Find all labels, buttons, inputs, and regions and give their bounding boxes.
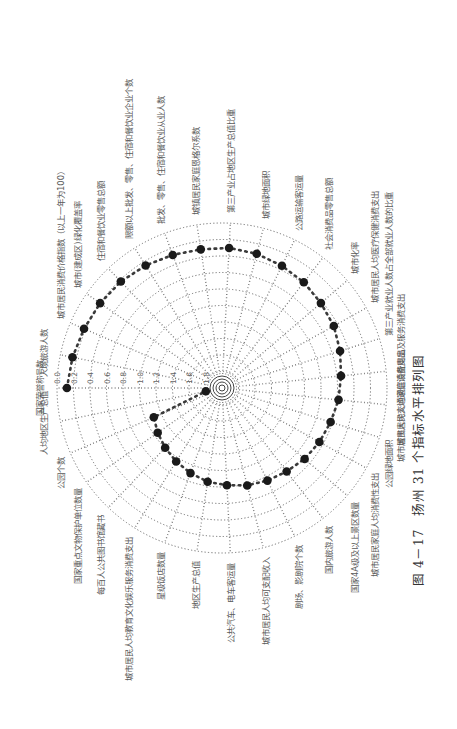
axis-label: 人均地区生产总值	[39, 390, 49, 455]
axis-label: 剧场、影剧院个数	[294, 544, 304, 609]
data-point	[300, 278, 309, 287]
axis-label: 城市(建成区)绿化覆盖率	[73, 201, 83, 288]
data-point	[330, 322, 339, 331]
radar-chart: 0.00.20.40.60.81.01.21.41.61.8 国家荣誉称号数人境…	[35, 78, 406, 680]
data-point	[243, 481, 252, 490]
data-point	[153, 428, 162, 437]
grid-spoke	[60, 391, 208, 421]
data-point	[203, 477, 212, 486]
grid-spoke	[236, 389, 386, 404]
center-ring	[210, 376, 234, 400]
data-point	[96, 299, 105, 308]
scale-tick-label: 1.8	[202, 372, 211, 384]
data-point	[336, 347, 345, 356]
grid-spoke	[236, 371, 386, 386]
axis-label: 公园绿地面积	[384, 439, 394, 488]
data-point	[149, 413, 158, 422]
axis-label: 第三产业占地区生产总值比重	[226, 109, 236, 213]
scale-tick-labels: 0.00.20.40.60.81.01.21.41.61.8	[53, 372, 211, 384]
axis-label: 第三产业就业人数占全部就业人数的比重	[384, 192, 394, 336]
data-point	[80, 324, 89, 333]
data-point	[263, 476, 272, 485]
grid-spoke	[226, 402, 264, 548]
axis-label: 城市绿地面积	[261, 170, 271, 219]
axis-label: 人境旅游人数	[39, 328, 49, 377]
scale-tick-label: 0.2	[70, 372, 79, 384]
data-point	[168, 251, 177, 260]
axis-label: 公路运输客运量	[294, 175, 304, 231]
rotated-document-page: 0.00.20.40.60.81.01.21.41.61.8 国家荣誉称号数人境…	[0, 0, 457, 729]
data-point	[223, 481, 232, 490]
scale-tick-label: 0.4	[86, 372, 95, 384]
axis-label: 公园个数	[56, 456, 66, 489]
grid-ring	[156, 322, 288, 454]
axis-label: 城市居民人均教育文化娱乐服务消费支出	[124, 537, 134, 681]
grid-spoke	[70, 394, 209, 454]
scale-tick-label: 1.4	[169, 372, 178, 384]
center-ring	[219, 385, 225, 391]
scale-tick-label: 1.6	[185, 372, 194, 384]
axis-label: 地区生产总值	[191, 560, 201, 609]
data-point	[161, 443, 170, 452]
axis-label: 住宿和餐饮业零售总额	[96, 180, 106, 261]
data-point	[252, 250, 261, 259]
grid-spoke	[228, 240, 294, 376]
center-rings	[210, 376, 234, 400]
data-point	[63, 384, 72, 393]
data-point	[225, 244, 234, 253]
data-point	[141, 261, 150, 270]
grid-ring	[189, 355, 255, 421]
axis-label: 城市居民消费价格指数（以上一年为100）	[56, 167, 66, 319]
grid-spoke	[235, 339, 379, 384]
axis-label: 国内旅游人数	[324, 525, 334, 574]
data-point	[202, 387, 211, 396]
grid-rings	[57, 223, 387, 553]
grid-spoke	[197, 402, 220, 551]
axis-label: 城市居民人均医疗保健消费支出	[370, 191, 380, 303]
data-point	[278, 261, 287, 270]
data-point	[282, 467, 291, 476]
data-point	[117, 277, 126, 286]
scale-tick-label: 1.2	[152, 372, 161, 384]
axis-label: 城市居民人均交通通信消费支出	[396, 350, 406, 462]
grid-ring	[90, 256, 354, 520]
data-point	[196, 245, 205, 254]
axis-label: 每百人公共图书馆藏书	[96, 515, 106, 595]
axis-label: 星级饭店数量	[156, 552, 166, 600]
data-point	[315, 438, 324, 447]
data-point	[300, 455, 309, 464]
axis-label: 社会消费品零售总额	[324, 177, 334, 250]
grid-spoke	[223, 402, 231, 553]
scale-tick-label: 1.0	[136, 372, 145, 384]
center-ring	[216, 382, 228, 394]
figure-caption: 图 4－17 扬州 31 个指标水平排列图	[411, 355, 426, 586]
grid-spoke	[231, 258, 323, 377]
axis-label: 公共汽车、电车客运量	[226, 563, 236, 643]
axis-label: 国家4A级及以上景区数量	[350, 502, 360, 593]
grid-spoke	[231, 399, 323, 518]
data-point	[317, 299, 326, 308]
axis-label: 城市化率	[350, 242, 360, 274]
scale-tick-label: 0.6	[103, 372, 112, 384]
data-points	[63, 244, 346, 490]
data-point	[334, 396, 343, 405]
grid-ring	[123, 289, 321, 487]
grid-spoke	[235, 392, 379, 437]
scale-tick-label: 0.0	[53, 372, 62, 384]
grid-spoke	[234, 308, 366, 381]
data-point	[172, 457, 181, 466]
axis-label: 城市居民家庭人均消费性支出	[370, 473, 380, 577]
data-point	[326, 418, 335, 427]
grid-spoke	[233, 397, 348, 495]
axis-label: 城镇居民家庭恩格尔系数	[191, 126, 201, 215]
axis-label: 国家重点文物保护单位数量	[73, 488, 83, 584]
axis-label: 城市居民人均可支配收入	[261, 556, 271, 645]
grid-spokes	[57, 223, 386, 553]
data-point	[186, 469, 195, 478]
axis-label: 批发、零售、住宿和餐饮业从业人数	[156, 95, 166, 224]
data-point	[337, 372, 346, 381]
scale-tick-label: 0.8	[119, 372, 128, 384]
data-point	[68, 353, 77, 362]
grid-spoke	[233, 281, 348, 379]
axis-label: 限额以上批发、零售、住宿和餐饮业企业个数	[124, 78, 134, 239]
